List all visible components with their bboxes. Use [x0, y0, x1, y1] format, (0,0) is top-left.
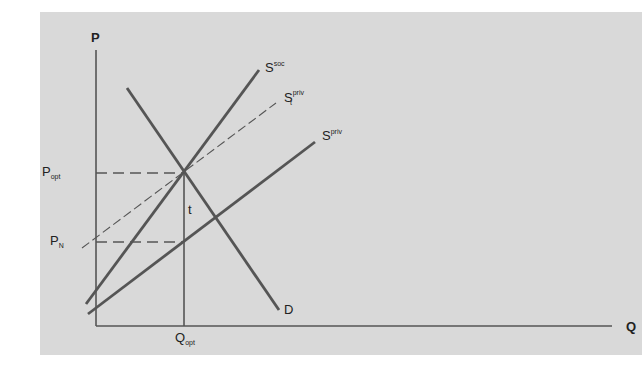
label-s-t-priv: Sprivt — [284, 89, 304, 106]
curve-s-priv — [88, 142, 315, 314]
label-q-opt: Qopt — [175, 330, 195, 347]
x-axis-label: Q — [626, 319, 636, 334]
label-s-soc: Ssoc — [265, 60, 285, 75]
externality-diagram: P Q Ssoc Sprivt Spriv D Popt PN Qopt t — [0, 0, 642, 375]
label-p-opt: Popt — [42, 164, 60, 181]
curve-s-soc — [86, 70, 259, 304]
label-s-priv: Spriv — [322, 128, 342, 143]
curve-s-t-priv — [82, 103, 276, 248]
label-tax: t — [188, 202, 192, 217]
label-p-n: PN — [50, 233, 64, 249]
curve-demand — [127, 88, 279, 310]
y-axis-label: P — [91, 30, 100, 45]
label-demand: D — [284, 302, 293, 317]
